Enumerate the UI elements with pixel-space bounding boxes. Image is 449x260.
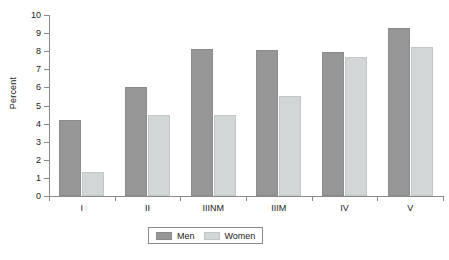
y-tick-label-4: 4 — [36, 119, 41, 129]
y-axis-line — [49, 15, 50, 196]
legend-swatch-men-icon — [156, 232, 172, 240]
x-tick-5 — [377, 196, 378, 201]
y-tick-10 — [44, 15, 49, 16]
y-tick-label-10: 10 — [31, 10, 41, 20]
x-category-label-IV: IV — [340, 203, 349, 213]
x-tick-0 — [49, 196, 50, 201]
x-category-label-IIIM: IIIM — [271, 203, 286, 213]
x-category-label-IIINM: IIINM — [202, 203, 224, 213]
legend-entry-men[interactable]: Men — [156, 231, 195, 241]
x-tick-1 — [115, 196, 116, 201]
bar-group-IV — [322, 15, 367, 196]
y-tick-label-3: 3 — [36, 137, 41, 147]
x-category-label-II: II — [145, 203, 150, 213]
y-tick-label-1: 1 — [36, 173, 41, 183]
y-tick-label-0: 0 — [36, 191, 41, 201]
bar-group-II — [125, 15, 170, 196]
y-tick-2 — [44, 160, 49, 161]
bar-men-V[interactable] — [388, 28, 410, 196]
bar-chart: Percent 012345678910 IIIIIINMIIIMIVV Men… — [0, 0, 449, 260]
bar-men-IIINM[interactable] — [191, 49, 213, 196]
legend-label-men: Men — [177, 231, 195, 241]
bar-men-II[interactable] — [125, 87, 147, 197]
plot-area: 012345678910 IIIIIINMIIIMIVV — [49, 15, 443, 196]
y-tick-label-6: 6 — [36, 82, 41, 92]
bar-group-V — [388, 15, 433, 196]
bar-women-II[interactable] — [148, 115, 170, 196]
bar-group-IIINM — [191, 15, 236, 196]
bar-women-V[interactable] — [411, 47, 433, 196]
bar-women-IIIM[interactable] — [279, 96, 301, 196]
y-tick-label-7: 7 — [36, 64, 41, 74]
caption-partial — [0, 252, 449, 260]
bar-group-IIIM — [256, 15, 301, 196]
x-tick-4 — [312, 196, 313, 201]
bar-women-I[interactable] — [82, 172, 104, 196]
bar-men-IV[interactable] — [322, 52, 344, 196]
x-tick-6 — [443, 196, 444, 201]
legend-entry-women[interactable]: Women — [204, 231, 256, 241]
y-tick-5 — [44, 106, 49, 107]
y-tick-4 — [44, 124, 49, 125]
y-tick-9 — [44, 33, 49, 34]
legend: Men Women — [148, 227, 263, 244]
y-tick-label-2: 2 — [36, 155, 41, 165]
x-category-label-V: V — [407, 203, 413, 213]
x-tick-2 — [180, 196, 181, 201]
y-tick-7 — [44, 69, 49, 70]
bar-women-IIINM[interactable] — [214, 115, 236, 196]
x-category-label-I: I — [81, 203, 84, 213]
legend-label-women: Women — [225, 231, 256, 241]
x-tick-3 — [246, 196, 247, 201]
y-axis-label: Percent — [8, 58, 18, 128]
legend-swatch-women-icon — [204, 232, 220, 240]
y-tick-label-5: 5 — [36, 101, 41, 111]
bar-group-I — [59, 15, 104, 196]
bar-men-IIIM[interactable] — [256, 50, 278, 196]
y-tick-label-8: 8 — [36, 46, 41, 56]
bar-women-IV[interactable] — [345, 57, 367, 196]
y-tick-label-9: 9 — [36, 28, 41, 38]
y-tick-1 — [44, 178, 49, 179]
y-tick-6 — [44, 87, 49, 88]
y-tick-8 — [44, 51, 49, 52]
y-tick-3 — [44, 142, 49, 143]
bar-men-I[interactable] — [59, 120, 81, 196]
